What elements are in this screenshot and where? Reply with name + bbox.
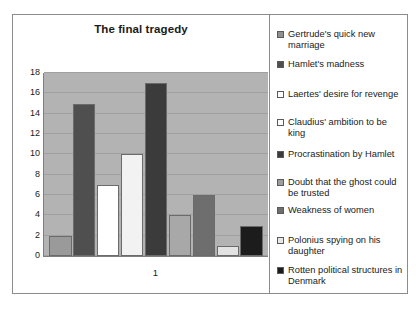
legend-divider: [269, 15, 270, 293]
y-axis-tick-label: 10: [30, 148, 40, 158]
bars-group: [44, 73, 268, 256]
bar: [97, 185, 119, 256]
legend-item[interactable]: Weakness of women: [277, 205, 405, 216]
legend-item[interactable]: Hamlet's madness: [277, 59, 405, 70]
legend-item-label: Laertes' desire for revenge: [288, 89, 398, 100]
legend-item[interactable]: Laertes' desire for revenge: [277, 89, 405, 100]
bar: [73, 104, 95, 257]
bar: [169, 215, 191, 256]
y-axis-tick-label: 16: [30, 87, 40, 97]
legend-item-label: Polonius spying on his daughter: [288, 235, 405, 257]
legend-item-label: Hamlet's madness: [288, 59, 364, 70]
y-axis-tick-label: 18: [30, 67, 40, 77]
legend-swatch-icon: [277, 31, 284, 38]
legend-swatch-icon: [277, 119, 284, 126]
legend-item-label: Claudius' ambition to be king: [288, 117, 405, 139]
y-axis-tick-label: 8: [35, 169, 40, 179]
legend-swatch-icon: [277, 207, 284, 214]
bar: [193, 195, 215, 256]
legend-item[interactable]: Doubt that the ghost could be trusted: [277, 177, 405, 199]
legend-swatch-icon: [277, 151, 284, 158]
legend-swatch-icon: [277, 267, 284, 274]
bar: [145, 83, 167, 256]
legend-swatch-icon: [277, 91, 284, 98]
bar: [240, 226, 262, 257]
plot-region: The final tragedy 024681012141618 1: [13, 15, 269, 293]
chart-title: The final tragedy: [13, 23, 269, 35]
legend-swatch-icon: [277, 179, 284, 186]
bar: [121, 154, 143, 256]
legend-item[interactable]: Claudius' ambition to be king: [277, 117, 405, 139]
legend-item[interactable]: Polonius spying on his daughter: [277, 235, 405, 257]
legend-item[interactable]: Procrastination by Hamlet: [277, 149, 405, 160]
bar: [49, 236, 71, 256]
chart-frame: The final tragedy 024681012141618 1 Gert…: [12, 14, 408, 294]
y-axis-tick-label: 14: [30, 108, 40, 118]
y-axis-tick-label: 0: [35, 250, 40, 260]
legend-item[interactable]: Rotten political structures in Denmark: [277, 265, 405, 287]
legend-swatch-icon: [277, 61, 284, 68]
x-axis-label: 1: [43, 267, 268, 278]
legend-item[interactable]: Gertrude's quick new marriage: [277, 29, 405, 51]
chart-legend: Gertrude's quick new marriageHamlet's ma…: [271, 21, 407, 293]
legend-item-label: Procrastination by Hamlet: [288, 149, 394, 160]
y-axis-tick-label: 2: [35, 230, 40, 240]
legend-item-label: Gertrude's quick new marriage: [288, 29, 405, 51]
y-axis-tick-label: 6: [35, 189, 40, 199]
legend-item-label: Doubt that the ghost could be trusted: [288, 177, 405, 199]
y-axis-tick-label: 12: [30, 128, 40, 138]
plot-area: 024681012141618: [43, 73, 268, 257]
legend-item-label: Rotten political structures in Denmark: [288, 265, 405, 287]
legend-item-label: Weakness of women: [288, 205, 374, 216]
y-axis-tick-label: 4: [35, 209, 40, 219]
legend-swatch-icon: [277, 237, 284, 244]
bar: [217, 246, 239, 256]
